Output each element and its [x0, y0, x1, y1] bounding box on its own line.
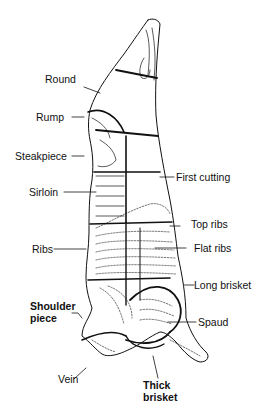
- cut-top-ribs: [90, 222, 172, 224]
- leader-shoulder: [72, 313, 82, 318]
- label-shoulder: Shoulder: [30, 301, 76, 312]
- cut-round: [116, 70, 157, 78]
- cut-long-brisket-arc: [130, 287, 181, 332]
- label-top-ribs: Top ribs: [191, 219, 228, 230]
- label-round: Round: [45, 74, 76, 85]
- carcass-outline: [82, 19, 208, 362]
- label-first-cutting: First cutting: [176, 172, 230, 183]
- cut-spaud-arc: [126, 332, 170, 343]
- label-steakpiece: Steakpiece: [15, 151, 67, 162]
- label-sirloin: Sirloin: [29, 187, 58, 198]
- label-thick: Thick: [143, 380, 170, 391]
- leader-round: [84, 87, 100, 93]
- label-rump: Rump: [36, 112, 64, 123]
- label-brisket: brisket: [143, 392, 177, 403]
- cut-rump-line: [96, 130, 158, 136]
- label-ribs: Ribs: [32, 244, 53, 255]
- cut-shoulder-line: [88, 278, 170, 280]
- label-piece: piece: [30, 313, 57, 324]
- cut-vein-line: [82, 333, 126, 340]
- label-long-brisket: Long brisket: [194, 280, 251, 291]
- label-spaud: Spaud: [198, 317, 228, 328]
- cut-thick-brisket: [126, 336, 164, 348]
- beef-side-diagram: [0, 0, 269, 418]
- label-flat-ribs: Flat ribs: [194, 243, 231, 254]
- label-vein: Vein: [58, 374, 78, 385]
- leader-thick-brisket: [153, 356, 158, 378]
